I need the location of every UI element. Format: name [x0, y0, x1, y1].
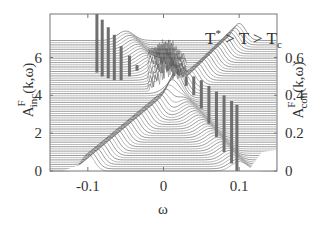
coherent-peak-bar — [235, 105, 238, 171]
spectral-curve — [50, 125, 277, 142]
coherent-peak-bar — [107, 27, 110, 78]
coherent-peak-bar — [207, 86, 210, 124]
chart: -0.100.1 0246 00.20.40.6 T* > T > Tc ω A… — [0, 0, 322, 227]
coherent-peak-bar — [192, 76, 195, 95]
coherent-peak-bar — [200, 80, 203, 108]
x-tick-label: -0.1 — [76, 178, 100, 194]
coherent-peak-bar — [128, 56, 131, 77]
x-tick-label: 0 — [160, 178, 168, 194]
coherent-peak-bar — [113, 35, 116, 80]
coherent-peak-bar — [136, 65, 139, 71]
coherent-peak-bar — [185, 76, 188, 85]
x-tick-label: 0.1 — [230, 178, 249, 194]
right-y-tick-label: 0.2 — [285, 125, 304, 141]
coherent-peak-bar — [230, 101, 233, 163]
spectral-curve — [50, 97, 277, 114]
right-y-tick-label: 0 — [285, 163, 293, 179]
coherent-peak-bar — [101, 20, 104, 77]
coherent-peak-bar — [215, 92, 218, 137]
spectral-curve — [50, 99, 277, 116]
coherent-peak-bar — [120, 46, 123, 80]
spectral-curve — [50, 117, 277, 134]
left-y-tick-label: 2 — [35, 125, 43, 141]
coherent-peak-bar — [223, 95, 226, 152]
coherent-peak-bar — [95, 14, 98, 73]
x-axis-title: ω — [158, 201, 168, 217]
spectral-curve — [50, 114, 277, 131]
coherent-peak-bar — [177, 65, 180, 67]
left-y-axis-title: AFinc(k,ω) — [15, 63, 39, 118]
left-y-tick-label: 0 — [35, 163, 43, 179]
